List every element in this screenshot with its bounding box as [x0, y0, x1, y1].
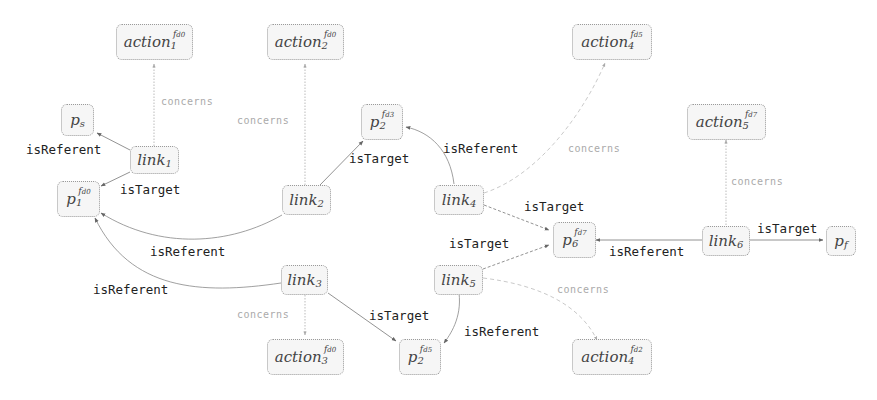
node-p-f[interactable]: pf [826, 226, 856, 256]
node-link6[interactable]: link6 [702, 226, 750, 256]
label-link4-istarget: isTarget [524, 199, 584, 214]
label-link5-isreferent: isReferent [464, 324, 539, 339]
edge-link5-p2b [444, 293, 459, 343]
label-link4-concerns: concerns [568, 143, 620, 154]
node-link3[interactable]: link3 [281, 265, 328, 295]
label-link2-istarget: isTarget [349, 151, 409, 166]
node-link2[interactable]: link2 [282, 185, 331, 215]
label-link4-isreferent: isReferent [443, 141, 518, 156]
edge-link2-p1 [101, 213, 282, 239]
label-link3-isreferent: isReferent [93, 282, 168, 297]
node-action2[interactable]: action2fd0 [267, 24, 344, 60]
label-link2-isreferent: isReferent [150, 244, 225, 259]
label-link6-concerns: concerns [731, 176, 783, 187]
node-p-s[interactable]: ps [61, 104, 94, 136]
node-action5[interactable]: action5fd7 [687, 104, 766, 140]
label-link6-istarget: isTarget [757, 221, 817, 236]
label-link6-isreferent: isReferent [609, 244, 684, 259]
label-link1-isreferent: isReferent [26, 142, 101, 157]
node-link1[interactable]: link1 [130, 146, 179, 174]
node-p1[interactable]: p1fd0 [57, 181, 100, 217]
node-p2-fd3[interactable]: p2fd3 [361, 104, 403, 140]
label-link3-istarget: isTarget [369, 308, 429, 323]
node-action3[interactable]: action3fd0 [267, 339, 344, 375]
node-p2-fd5[interactable]: p2fd5 [399, 339, 441, 375]
label-link1-concerns: concerns [161, 96, 213, 107]
node-action4-fd2[interactable]: action4fd2 [572, 339, 652, 375]
label-link1-istarget: isTarget [120, 182, 180, 197]
label-link5-istarget: isTarget [449, 236, 509, 251]
node-link4[interactable]: link4 [434, 185, 484, 215]
edge-link1-ps [97, 133, 130, 150]
edge-link4-action4a [484, 63, 605, 193]
label-link3-concerns: concerns [237, 309, 289, 320]
label-link5-concerns: concerns [557, 284, 609, 295]
node-p6[interactable]: p6fd7 [553, 222, 596, 258]
label-link2-concerns: concerns [237, 115, 289, 126]
diagram-canvas: action1fd0 action2fd0 action4fd5 action5… [0, 0, 877, 400]
node-action1[interactable]: action1fd0 [116, 24, 193, 60]
node-link5[interactable]: link5 [434, 265, 483, 295]
node-action4-fd5[interactable]: action4fd5 [572, 24, 652, 60]
